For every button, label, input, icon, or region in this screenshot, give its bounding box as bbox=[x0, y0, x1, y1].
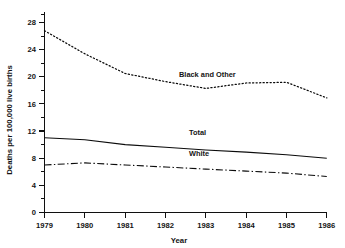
series-annotation-total: Total bbox=[189, 128, 206, 137]
y-axis-title: Deaths per 100,000 live births bbox=[5, 65, 14, 175]
y-tick-label-4: 4 bbox=[32, 181, 37, 190]
y-tick-label-8: 8 bbox=[32, 154, 36, 163]
x-tick-label-1984: 1984 bbox=[238, 221, 256, 230]
x-tick-label-1980: 1980 bbox=[76, 221, 93, 230]
x-axis-title: Year bbox=[171, 236, 187, 245]
x-tick-label-1981: 1981 bbox=[117, 221, 135, 230]
x-tick-label-1982: 1982 bbox=[157, 221, 174, 230]
y-tick-label-0: 0 bbox=[32, 208, 36, 217]
series-line-total bbox=[45, 138, 327, 158]
y-tick-label-20: 20 bbox=[28, 72, 36, 81]
x-tick-label-1986: 1986 bbox=[318, 221, 335, 230]
chart-figure: 0 4 8 12 16 20 24 28 1979 1980 1981 1982… bbox=[0, 0, 345, 248]
series-annotation-white: White bbox=[189, 149, 209, 158]
x-axis-major-ticks bbox=[45, 213, 327, 219]
series-line-black-and-other bbox=[45, 31, 327, 98]
line-chart-canvas: 0 4 8 12 16 20 24 28 1979 1980 1981 1982… bbox=[0, 0, 345, 248]
series-annotation-black-and-other: Black and Other bbox=[179, 70, 236, 79]
y-tick-label-16: 16 bbox=[28, 100, 36, 109]
y-tick-label-12: 12 bbox=[28, 127, 36, 136]
x-tick-label-1983: 1983 bbox=[197, 221, 214, 230]
x-tick-label-1979: 1979 bbox=[36, 221, 53, 230]
series-line-white bbox=[45, 163, 327, 177]
x-tick-label-1985: 1985 bbox=[278, 221, 296, 230]
y-tick-label-28: 28 bbox=[28, 18, 36, 27]
y-tick-label-24: 24 bbox=[28, 45, 37, 54]
